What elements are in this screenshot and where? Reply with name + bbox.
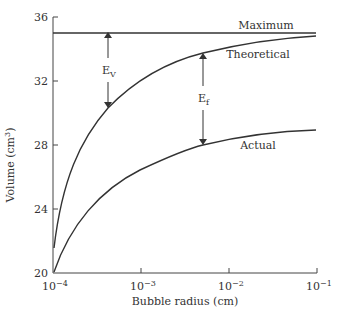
maximum-label: Maximum — [238, 19, 294, 32]
ef-label: Ef — [198, 92, 210, 107]
x-axis-title: Bubble radius (cm) — [132, 295, 239, 308]
y-tick-label-32: 32 — [34, 75, 48, 88]
x-tick-label-1e-3: 10−3 — [130, 279, 156, 293]
y-axis-title: Volume (cm3) — [3, 128, 17, 204]
ev-annotation: EV — [102, 35, 116, 105]
theoretical-curve — [54, 36, 316, 248]
y-tick-label-24: 24 — [34, 203, 48, 216]
actual-label: Actual — [239, 139, 276, 152]
y-tick-label-36: 36 — [34, 11, 48, 24]
y-tick-label-28: 28 — [34, 139, 48, 152]
ef-annotation: Ef — [198, 56, 210, 142]
y-tick-label-20: 20 — [34, 267, 48, 280]
x-tick-label-1e-1: 10−1 — [306, 279, 332, 293]
ev-label: EV — [102, 64, 116, 79]
actual-curve — [54, 130, 316, 272]
chart: 36 32 28 24 20 10−4 10−3 10−2 10−1 Bubbl… — [0, 0, 343, 320]
x-tick-label-1e-2: 10−2 — [218, 279, 244, 293]
theoretical-label: Theoretical — [226, 48, 290, 61]
x-tick-label-1e-4: 10−4 — [42, 279, 68, 293]
